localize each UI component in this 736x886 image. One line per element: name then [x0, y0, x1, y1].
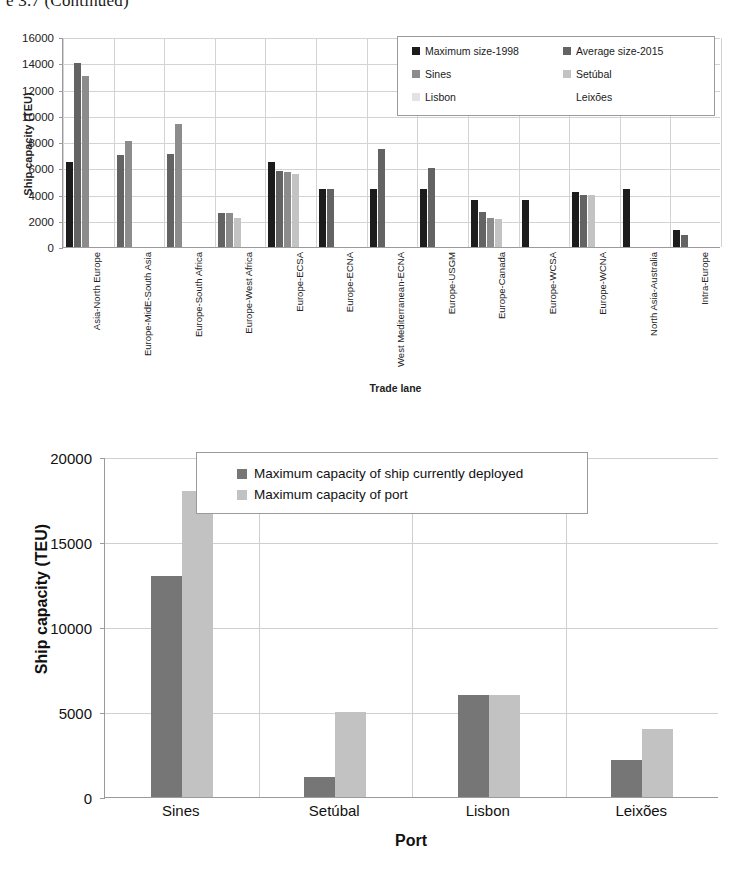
- chart1-legend: Maximum size-1998Average size-2015SinesS…: [397, 36, 715, 116]
- figure-page: e 3.7 (Continued) Ship capacity (TEU) 16…: [0, 0, 736, 886]
- chart1-y-tick-label: 4000: [28, 190, 54, 202]
- chart1-bar-group: [215, 38, 266, 247]
- chart1-legend-row: SinesSetúbal: [412, 68, 714, 91]
- chart1-bar: [623, 189, 630, 247]
- chart1-bar: [673, 230, 680, 247]
- chart1-bar: [319, 189, 326, 247]
- chart1-bar: [428, 168, 435, 247]
- chart1-bar: [420, 189, 427, 247]
- chart1-bar-group: [164, 38, 215, 247]
- chart2-bar: [304, 777, 335, 797]
- chart1-bar: [588, 195, 595, 248]
- chart1-x-tick-label: Europe-WCNA: [597, 252, 608, 315]
- chart1-legend-row: LisbonLeixões: [412, 91, 714, 114]
- chart1-x-tick-label: Europe-Canada: [496, 252, 507, 319]
- chart1-x-tick-label: West Mediterranean-ECNA: [395, 252, 406, 367]
- chart2-x-tick-label: Setúbal: [309, 802, 360, 819]
- chart1-legend-label: Maximum size-1998: [425, 45, 519, 57]
- chart1-bar: [218, 213, 225, 247]
- chart1-y-tick-label: 10000: [22, 111, 54, 123]
- chart1-bar: [125, 141, 132, 247]
- chart1-bar: [495, 219, 502, 247]
- chart1-bar: [487, 218, 494, 247]
- chart1-y-tick-label: 0: [48, 242, 54, 254]
- chart2-bar: [489, 695, 520, 797]
- chart2-x-tick-label: Leixões: [615, 802, 667, 819]
- chart1-y-axis-ticks: 1600014000120001000080006000400020000: [0, 38, 58, 248]
- chart2-x-axis-ticks: SinesSetúbalLisbonLeixões: [104, 802, 718, 832]
- chart1-x-axis-title: Trade lane: [0, 382, 736, 394]
- chart1-bar: [82, 76, 89, 247]
- chart1-bar: [378, 149, 385, 247]
- chart1-legend-item: Lisbon: [412, 91, 563, 103]
- legend-swatch-icon: [237, 469, 247, 479]
- chart1-bar-group: [63, 38, 114, 247]
- chart1-bar-group: [316, 38, 367, 247]
- chart1-bar: [327, 189, 334, 247]
- chart1-y-tick-label: 6000: [28, 163, 54, 175]
- chart1-legend-label: Sines: [425, 68, 451, 80]
- chart1-y-tick-label: 8000: [28, 137, 54, 149]
- chart2-y-axis-ticks: 20000150001000050000: [20, 458, 98, 798]
- chart1-legend-label: Average size-2015: [576, 45, 663, 57]
- chart1-bar: [471, 200, 478, 247]
- chart1-legend-label: Leixões: [576, 91, 612, 103]
- chart2-x-axis-title: Port: [104, 832, 718, 850]
- chart1-legend-item: Sines: [412, 68, 563, 80]
- chart1-x-tick-label: Europe-ECSA: [294, 252, 305, 312]
- chart1-x-tick-label: Europe-MidE-South Asia: [142, 252, 153, 356]
- chart1-bar: [580, 195, 587, 248]
- chart1-bar: [479, 212, 486, 247]
- chart1-bar: [66, 162, 73, 247]
- chart1-bar: [370, 189, 377, 247]
- chart1-legend-label: Setúbal: [576, 68, 612, 80]
- chart2-bar: [611, 760, 642, 797]
- chart1-y-tick-label: 2000: [28, 216, 54, 228]
- chart1-legend-item: Setúbal: [563, 68, 714, 80]
- chart-trade-lane-ship-capacity: Ship capacity (TEU) 16000140001200010000…: [0, 30, 736, 430]
- chart1-legend-item: Maximum size-1998: [412, 45, 563, 57]
- chart1-x-tick-label: North Asia-Australia: [648, 252, 659, 336]
- chart-port-capacity-comparison: Ship capacity (TEU) 20000150001000050000…: [0, 440, 736, 886]
- legend-swatch-icon: [563, 47, 571, 55]
- chart2-legend: Maximum capacity of ship currently deplo…: [196, 452, 588, 514]
- chart1-bar: [234, 218, 241, 247]
- legend-swatch-icon: [412, 70, 420, 78]
- chart2-y-tick-label: 10000: [50, 620, 92, 637]
- chart1-legend-label: Lisbon: [425, 91, 456, 103]
- chart1-bar-group: [265, 38, 316, 247]
- chart2-bar: [182, 491, 213, 797]
- chart1-x-tick-label: Asia-North Europe: [91, 252, 102, 330]
- chart2-y-tick-mark: [100, 798, 105, 799]
- chart2-y-tick-label: 20000: [50, 450, 92, 467]
- chart1-x-tick-label: Europe-West Africa: [243, 252, 254, 334]
- chart2-bar: [458, 695, 489, 797]
- chart2-legend-label: Maximum capacity of port: [254, 487, 408, 502]
- chart1-bar: [175, 124, 182, 247]
- chart2-y-tick-label: 15000: [50, 535, 92, 552]
- chart2-x-tick-label: Lisbon: [466, 802, 510, 819]
- chart1-legend-item: Average size-2015: [563, 45, 714, 57]
- chart1-x-axis-ticks: Asia-North EuropeEurope-MidE-South AsiaE…: [62, 248, 720, 378]
- chart2-legend-label: Maximum capacity of ship currently deplo…: [254, 466, 523, 481]
- chart1-y-tick-label: 16000: [22, 32, 54, 44]
- chart1-x-tick-label: Europe-ECNA: [344, 252, 355, 312]
- chart1-bar: [276, 171, 283, 247]
- chart2-bar-group: [566, 458, 720, 797]
- chart1-category-separator: [721, 38, 722, 247]
- chart1-bar: [572, 192, 579, 247]
- chart2-legend-item: Maximum capacity of ship currently deplo…: [237, 463, 587, 484]
- chart1-bar: [117, 155, 124, 247]
- legend-swatch-icon: [563, 93, 571, 101]
- chart2-bar: [335, 712, 366, 797]
- legend-swatch-icon: [412, 93, 420, 101]
- figure-caption: e 3.7 (Continued): [6, 0, 129, 11]
- chart1-x-tick-label: Europe-USGM: [446, 252, 457, 314]
- chart1-bar: [522, 200, 529, 247]
- chart2-x-tick-label: Sines: [162, 802, 200, 819]
- chart1-x-tick-label: Europe-WCSA: [547, 252, 558, 314]
- chart2-legend-item: Maximum capacity of port: [237, 484, 587, 505]
- chart2-y-tick-label: 5000: [59, 705, 92, 722]
- chart1-x-tick-label: Intra-Europe: [699, 252, 710, 305]
- chart2-bar: [151, 576, 182, 797]
